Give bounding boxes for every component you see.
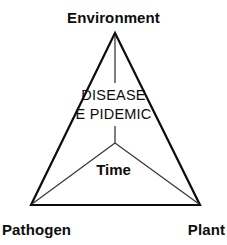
disease-triangle-diagram: Environment Pathogen Plant DISEASE E PID… [0,0,227,245]
center-label-time: Time [96,162,131,177]
vertex-label-pathogen: Pathogen [2,222,71,237]
vertex-label-environment: Environment [67,10,160,25]
triangle-graphic [0,0,227,245]
center-label-epidemic: E PIDEMIC [76,107,152,122]
center-label-disease: DISEASE [81,88,145,103]
vertex-label-plant: Plant [188,222,225,237]
